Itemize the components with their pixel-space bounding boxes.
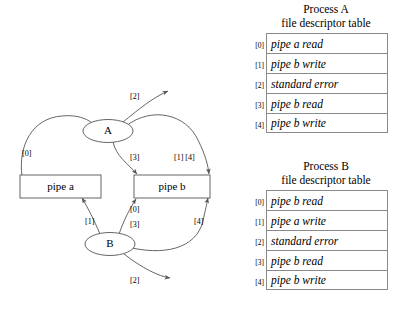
table-row: [1] pipe a write	[248, 210, 388, 230]
table-row: [3] pipe b read	[248, 250, 388, 270]
fd-index: [2]	[248, 73, 266, 93]
edge-b-standard-error	[124, 254, 170, 278]
fd-value: pipe a write	[266, 210, 388, 230]
diagram-page: A B pipe a pipe b [0] [2] [3] [1] [4] [1…	[0, 0, 396, 323]
fd-value: pipe b write	[266, 270, 388, 290]
node-label-process-a: A	[88, 125, 128, 136]
fd-value: pipe b read	[266, 190, 388, 210]
table-row: [0] pipe a read	[248, 33, 388, 53]
edge-label-a-pipe-a-read: [0]	[22, 150, 31, 158]
edge-b-pipe-a-write	[82, 198, 100, 234]
fd-index: [1]	[248, 210, 266, 230]
fd-index: [0]	[248, 190, 266, 210]
node-label-pipe-b: pipe b	[134, 181, 210, 192]
fd-table-title-process-a: Process A file descriptor table	[248, 2, 388, 30]
table-row: [4] pipe b write	[248, 113, 388, 133]
fd-value: pipe b read	[266, 93, 388, 113]
edge-a-pipe-b-write	[126, 115, 209, 174]
edge-label-a-pipe-b-read: [3]	[130, 154, 139, 162]
edge-label-b-pipe-b-read-0: [0]	[130, 206, 139, 214]
edge-label-a-pipe-b-write: [1] [4]	[174, 154, 195, 162]
fd-value: pipe b write	[266, 113, 388, 133]
process-pipe-diagram	[0, 0, 232, 323]
fd-title-line1: Process B	[303, 160, 349, 172]
fd-table-process-b: Process B file descriptor table [0] pipe…	[248, 159, 388, 290]
fd-title-line2: file descriptor table	[264, 16, 388, 30]
fd-index: [4]	[248, 113, 266, 133]
edge-label-b-pipe-b-read-3: [3]	[130, 221, 139, 229]
node-label-pipe-a: pipe a	[20, 181, 101, 192]
table-row: [0] pipe b read	[248, 190, 388, 210]
fd-table-process-a: Process A file descriptor table [0] pipe…	[248, 2, 388, 133]
fd-title-line1: Process A	[303, 3, 349, 15]
table-row: [3] pipe b read	[248, 93, 388, 113]
fd-value: pipe b write	[266, 53, 388, 73]
fd-index: [3]	[248, 93, 266, 113]
fd-table-title-process-b: Process B file descriptor table	[248, 159, 388, 187]
fd-index: [4]	[248, 270, 266, 290]
fd-index: [0]	[248, 33, 266, 53]
fd-index: [2]	[248, 230, 266, 250]
fd-value: standard error	[266, 73, 388, 93]
edge-label-b-pipe-b-write-4: [4]	[194, 218, 203, 226]
table-row: [2] standard error	[248, 230, 388, 250]
table-row: [1] pipe b write	[248, 53, 388, 73]
table-row: [4] pipe b write	[248, 270, 388, 290]
edge-label-b-pipe-a-write: [1]	[85, 218, 94, 226]
edge-label-b-standard-error: [2]	[130, 277, 139, 285]
fd-value: pipe a read	[266, 33, 388, 53]
node-label-process-b: B	[90, 238, 130, 249]
fd-title-line2: file descriptor table	[264, 173, 388, 187]
fd-value: standard error	[266, 230, 388, 250]
fd-value: pipe b read	[266, 250, 388, 270]
fd-index: [1]	[248, 53, 266, 73]
table-row: [2] standard error	[248, 73, 388, 93]
fd-index: [3]	[248, 250, 266, 270]
edge-label-a-standard-error: [2]	[130, 93, 139, 101]
